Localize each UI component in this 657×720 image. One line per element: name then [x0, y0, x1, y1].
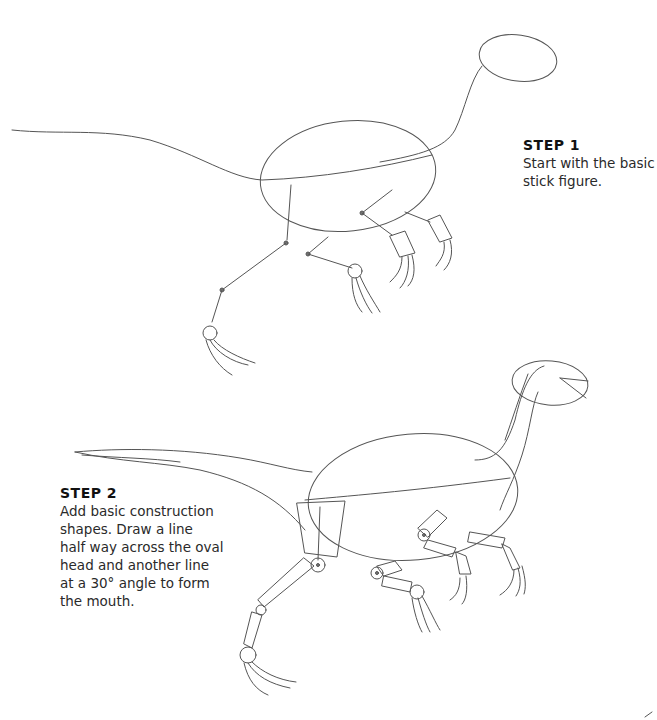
mouth-line — [560, 378, 586, 398]
step-2-title: STEP 2 — [60, 485, 245, 501]
step-1-title: STEP 1 — [523, 137, 657, 153]
step-1-caption: STEP 1 Start with the basic stick figure… — [523, 137, 657, 190]
step-2-text: Add basic construction shapes. Draw a li… — [60, 502, 245, 610]
step-2-caption: STEP 2 Add basic construction shapes. Dr… — [60, 485, 245, 610]
step-1-text: Start with the basic stick figure. — [523, 154, 657, 190]
head-midline — [560, 378, 588, 381]
step-2-illustration — [0, 0, 657, 720]
tutorial-page: STEP 1 Start with the basic stick figure… — [0, 0, 657, 720]
corner-mark — [645, 712, 652, 717]
